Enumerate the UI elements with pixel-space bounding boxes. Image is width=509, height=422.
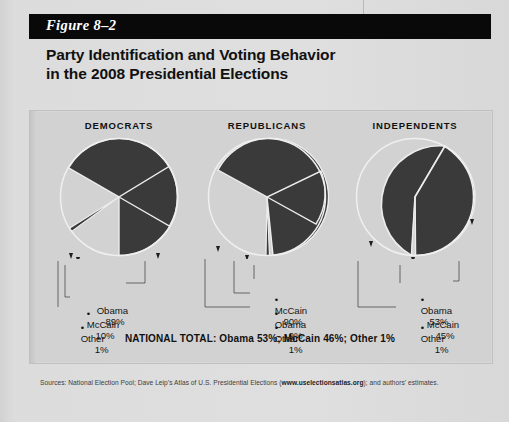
pointer-arrow-mccain bbox=[76, 257, 80, 259]
legend-row: • Obama 53% bbox=[394, 283, 509, 297]
legend-pct: 1% bbox=[275, 344, 303, 355]
pointer-arrow-other bbox=[69, 253, 73, 259]
pie-graphic-republicans bbox=[205, 135, 329, 259]
pie-title-democrats: DEMOCRATS bbox=[44, 120, 194, 131]
legend-row: • Other 1% bbox=[394, 311, 509, 325]
chart-panel: DEMOCRATS bbox=[29, 110, 493, 364]
figure-page: Figure 8–2 Party Identification and Voti… bbox=[0, 0, 509, 422]
sources-note: Sources: National Election Pool; Dave Le… bbox=[40, 379, 495, 386]
figure-number-bar: Figure 8–2 bbox=[29, 14, 491, 39]
pie-title-republicans: REPUBLICANS bbox=[192, 120, 342, 131]
pointer-arrow-mccain bbox=[216, 246, 220, 252]
figure-title-line-2: in the 2008 Presidential Elections bbox=[46, 64, 476, 83]
pie-graphic-democrats bbox=[57, 135, 181, 259]
sources-text-pre: Sources: National Election Pool; Dave Le… bbox=[40, 379, 282, 386]
national-total-line: NATIONAL TOTAL: Obama 53%; McCain 46%; O… bbox=[29, 333, 491, 344]
pointer-arrow-other bbox=[411, 257, 415, 259]
pie-chart-independents: INDEPENDENTS bbox=[340, 111, 490, 363]
figure-title-line-1: Party Identification and Voting Behavior bbox=[46, 45, 476, 64]
pie-chart-democrats: DEMOCRATS bbox=[44, 111, 194, 363]
sources-text-post: ); and authors’ estimates. bbox=[363, 379, 438, 386]
legend-independents: • Obama 53% McCain 45% • Other 1% bbox=[340, 283, 509, 325]
pie-title-independents: INDEPENDENTS bbox=[340, 120, 490, 131]
figure-number-label: Figure 8–2 bbox=[46, 17, 116, 34]
legend-pct: 1% bbox=[421, 344, 449, 355]
legend-pct: 1% bbox=[81, 344, 109, 355]
pointer-arrow-mccain bbox=[470, 219, 474, 225]
legend-row: McCain 45% bbox=[400, 297, 509, 311]
pie-chart-republicans: REPUBLICANS • bbox=[192, 111, 342, 363]
pointer-arrow-obama bbox=[156, 253, 160, 259]
pie-svg-democrats bbox=[57, 135, 181, 259]
pointer-arrow-obama bbox=[369, 241, 373, 247]
pie-graphic-independents bbox=[353, 135, 477, 259]
pie-svg-republicans bbox=[205, 135, 329, 259]
pie-svg-independents bbox=[353, 135, 477, 259]
sources-link[interactable]: www.uselectionsatlas.org bbox=[282, 379, 364, 386]
figure-title: Party Identification and Voting Behavior… bbox=[46, 45, 476, 83]
pie-slice-other bbox=[69, 197, 119, 231]
